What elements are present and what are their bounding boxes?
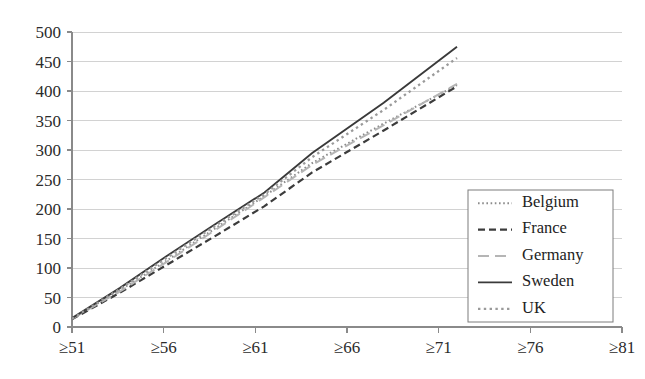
x-tick-label: ≥61 [242, 338, 268, 357]
y-tick-label: 50 [44, 289, 61, 308]
x-tick-label: ≥51 [59, 338, 85, 357]
y-axis: 050100150200250300350400450500 [36, 23, 73, 337]
series-line-uk [72, 58, 457, 319]
y-tick-label: 200 [36, 200, 62, 219]
y-tick-label: 500 [36, 23, 62, 42]
y-tick-label: 250 [36, 171, 62, 190]
series-line-sweden [72, 47, 457, 318]
y-tick-label: 100 [36, 259, 62, 278]
x-tick-label: ≥56 [151, 338, 177, 357]
series-group [72, 47, 457, 320]
legend-label-france: France [522, 218, 567, 237]
y-tick-label: 400 [36, 82, 62, 101]
series-line-france [72, 86, 457, 319]
y-tick-label: 0 [53, 318, 62, 337]
x-tick-label: ≥76 [517, 338, 543, 357]
y-tick-label: 300 [36, 141, 62, 160]
y-tick-label: 450 [36, 53, 62, 72]
y-tick-label: 350 [36, 112, 62, 131]
legend: BelgiumFranceGermanySwedenUK [468, 190, 613, 322]
chart-canvas: 050100150200250300350400450500≥51≥56≥61≥… [0, 0, 645, 379]
x-tick-label: ≥71 [426, 338, 452, 357]
x-tick-label: ≥66 [334, 338, 360, 357]
legend-label-germany: Germany [522, 245, 584, 264]
y-tick-label: 150 [36, 230, 62, 249]
line-chart-figure: 050100150200250300350400450500≥51≥56≥61≥… [0, 0, 645, 379]
legend-label-uk: UK [522, 298, 546, 317]
x-axis: ≥51≥56≥61≥66≥71≥76≥81 [59, 327, 635, 357]
legend-label-sweden: Sweden [522, 271, 574, 290]
x-tick-label: ≥81 [609, 338, 635, 357]
legend-label-belgium: Belgium [522, 192, 579, 211]
